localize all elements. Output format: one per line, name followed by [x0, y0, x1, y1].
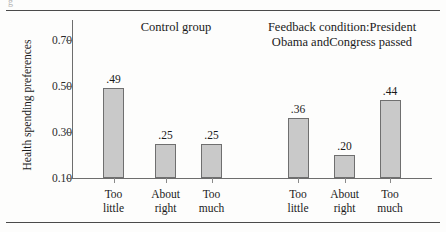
panel-title-line: Congress passed — [329, 35, 412, 49]
bar-control-0 — [103, 88, 124, 178]
x-axis-tick-mark — [166, 178, 167, 183]
category-label-line2: much — [364, 202, 416, 216]
bar-value-label: .25 — [192, 129, 232, 141]
y-axis-tick-mark — [66, 40, 72, 41]
bar-chart-plot: Health spending preferences 0.100.300.50… — [0, 0, 446, 232]
bar-feedback-1 — [334, 155, 355, 178]
panel-title-feedback: Feedback condition:President Obama andCo… — [258, 20, 426, 50]
y-axis-tick-mark — [66, 132, 72, 133]
x-axis-category-label: Toolittle — [272, 188, 324, 215]
bar-feedback-2 — [380, 100, 401, 178]
y-axis-title: Health spending preferences — [21, 15, 33, 195]
y-axis-tick-mark — [66, 178, 72, 179]
category-label-line1: Too — [88, 188, 140, 202]
x-axis-tick-mark — [345, 178, 346, 183]
category-label-line2: much — [186, 202, 238, 216]
x-axis-category-label: Toomuch — [364, 188, 416, 215]
x-axis-category-label: Toolittle — [88, 188, 140, 215]
bar-value-label: .49 — [94, 73, 134, 85]
panel-title-line: Control group — [141, 20, 211, 34]
x-axis-category-label: Aboutright — [140, 188, 192, 215]
bar-value-label: .44 — [370, 85, 410, 97]
y-axis-line — [72, 20, 73, 179]
x-axis-category-label: Aboutright — [319, 188, 371, 215]
x-axis-category-label: Toomuch — [186, 188, 238, 215]
x-axis-tick-mark — [212, 178, 213, 183]
panel-title-line: Feedback condition: — [268, 20, 370, 34]
x-axis-tick-mark — [114, 178, 115, 183]
bar-feedback-0 — [288, 118, 309, 178]
bar-value-label: .36 — [278, 103, 318, 115]
category-label-line1: Too — [272, 188, 324, 202]
bar-value-label: .20 — [325, 140, 365, 152]
category-label-line2: right — [319, 202, 371, 216]
panel-title-control: Control group — [108, 20, 244, 35]
bar-control-2 — [201, 144, 222, 179]
category-label-line1: Too — [364, 188, 416, 202]
y-axis-tick-mark — [66, 86, 72, 87]
category-label-line1: About — [140, 188, 192, 202]
bar-value-label: .25 — [146, 129, 186, 141]
bar-control-1 — [155, 144, 176, 179]
x-axis-tick-mark — [390, 178, 391, 183]
category-label-line1: Too — [186, 188, 238, 202]
x-axis-line — [72, 178, 432, 179]
category-label-line2: little — [272, 202, 324, 216]
category-label-line2: little — [88, 202, 140, 216]
category-label-line1: About — [319, 188, 371, 202]
x-axis-tick-mark — [298, 178, 299, 183]
figure-container: g Health spending preferences 0.100.300.… — [0, 0, 446, 232]
category-label-line2: right — [140, 202, 192, 216]
